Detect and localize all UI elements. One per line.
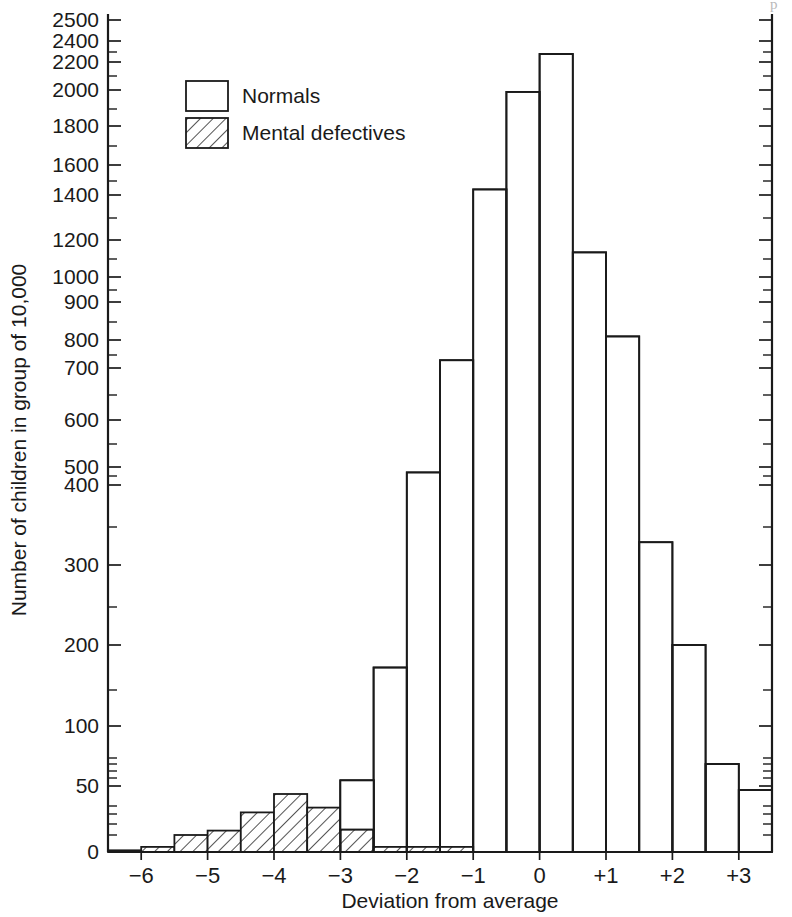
histogram-bin bbox=[506, 92, 539, 852]
page-edge-artifact: p bbox=[770, 0, 778, 13]
x-tick-label: −2 bbox=[394, 863, 419, 888]
histogram-bin bbox=[639, 542, 672, 852]
bar-normals bbox=[374, 668, 407, 853]
histogram-bin bbox=[241, 812, 274, 852]
y-tick-label: 1200 bbox=[52, 228, 99, 251]
bar-mental-defectives bbox=[208, 831, 241, 852]
y-axis-title: Number of children in group of 10,000 bbox=[7, 264, 30, 617]
x-tick-label: +3 bbox=[726, 863, 751, 888]
chart-legend: Normals Mental defectives bbox=[186, 81, 405, 148]
histogram-bin bbox=[274, 794, 307, 852]
histogram-bin bbox=[473, 189, 506, 852]
legend-swatch-normals bbox=[186, 81, 228, 111]
histogram-bin bbox=[540, 54, 573, 852]
x-tick-label: +1 bbox=[593, 863, 618, 888]
figure-panel: p 05010020030040050060070080090010001200… bbox=[0, 0, 792, 917]
y-tick-label: 600 bbox=[64, 408, 99, 431]
histogram-bin bbox=[706, 764, 739, 852]
y-tick-label: 800 bbox=[64, 328, 99, 351]
y-tick-label: 100 bbox=[64, 714, 99, 737]
y-tick-label: 2200 bbox=[52, 50, 99, 73]
histogram-bin bbox=[174, 835, 207, 852]
histogram-chart: 0501002003004005006007008009001000120014… bbox=[0, 0, 792, 917]
histogram-bin bbox=[208, 831, 241, 852]
y-tick-label: 1000 bbox=[52, 265, 99, 288]
y-tick-label: 700 bbox=[64, 356, 99, 379]
histogram-bin bbox=[606, 336, 639, 852]
bar-normals bbox=[706, 764, 739, 852]
bar-mental-defectives bbox=[307, 808, 340, 852]
histogram-bin bbox=[407, 472, 440, 852]
x-tick-label: −1 bbox=[461, 863, 486, 888]
y-tick-label: 0 bbox=[87, 840, 99, 863]
histogram-bin bbox=[573, 252, 606, 852]
x-tick-label: −5 bbox=[195, 863, 220, 888]
bar-normals bbox=[473, 189, 506, 852]
bar-normals bbox=[407, 472, 440, 852]
legend-label-mental-defectives: Mental defectives bbox=[242, 121, 405, 144]
bar-normals bbox=[506, 92, 539, 852]
bar-normals bbox=[540, 54, 573, 852]
bar-normals bbox=[639, 542, 672, 852]
y-tick-label: 1800 bbox=[52, 114, 99, 137]
bar-normals bbox=[440, 360, 473, 852]
legend-swatch-mental-defectives bbox=[186, 118, 228, 148]
y-tick-label: 500 bbox=[64, 455, 99, 478]
x-tick-label: −3 bbox=[328, 863, 353, 888]
histogram-bin bbox=[672, 645, 705, 852]
y-tick-label: 300 bbox=[64, 553, 99, 576]
y-tick-label: 900 bbox=[64, 290, 99, 313]
bar-normals-overlay bbox=[340, 780, 373, 829]
legend-label-normals: Normals bbox=[242, 84, 320, 107]
y-tick-label: 2400 bbox=[52, 29, 99, 52]
x-tick-label: −6 bbox=[129, 863, 154, 888]
bar-normals bbox=[573, 252, 606, 852]
histogram-bin bbox=[374, 668, 407, 853]
bar-mental-defectives bbox=[174, 835, 207, 852]
y-tick-label: 50 bbox=[76, 774, 99, 797]
y-tick-label: 200 bbox=[64, 633, 99, 656]
x-axis-title: Deviation from average bbox=[341, 889, 558, 912]
y-tick-label: 1400 bbox=[52, 183, 99, 206]
bar-normals bbox=[606, 336, 639, 852]
histogram-bin bbox=[307, 808, 340, 852]
histogram-bin bbox=[440, 360, 473, 852]
x-tick-label: +2 bbox=[660, 863, 685, 888]
y-tick-label: 2500 bbox=[52, 8, 99, 31]
bars-layer bbox=[108, 54, 772, 852]
x-tick-label: 0 bbox=[533, 863, 545, 888]
bar-mental-defectives bbox=[241, 812, 274, 852]
x-tick-label: −4 bbox=[261, 863, 286, 888]
y-tick-label: 1600 bbox=[52, 153, 99, 176]
bar-normals bbox=[672, 645, 705, 852]
y-tick-label: 2000 bbox=[52, 78, 99, 101]
bar-mental-defectives bbox=[274, 794, 307, 852]
histogram-bin bbox=[739, 790, 772, 852]
bar-normals bbox=[739, 790, 772, 852]
